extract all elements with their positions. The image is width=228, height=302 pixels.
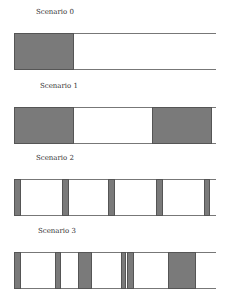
scenario-title: Scenario 3: [12, 227, 102, 235]
occupied-block: [121, 252, 126, 289]
track-bottom-line: [14, 215, 216, 216]
occupied-block: [108, 179, 115, 216]
scenario-panel-2: Scenario 2: [0, 154, 228, 228]
occupied-block: [14, 33, 74, 70]
occupied-block: [127, 252, 134, 289]
track-top-line: [14, 179, 216, 180]
scenario-title: Scenario 1: [14, 82, 104, 90]
scenario-panel-0: Scenario 0: [0, 8, 228, 82]
occupied-block: [62, 179, 69, 216]
occupied-block: [14, 179, 21, 216]
scenario-track: [14, 33, 216, 70]
occupied-block: [168, 252, 196, 289]
occupied-block: [78, 252, 92, 289]
scenario-title: Scenario 0: [10, 8, 100, 16]
scenario-panel-3: Scenario 3: [0, 227, 228, 301]
scenario-panel-1: Scenario 1: [0, 82, 228, 156]
scenario-track: [14, 179, 216, 216]
scenario-track: [14, 252, 216, 289]
occupied-block: [152, 107, 212, 144]
occupied-block: [156, 179, 163, 216]
scenario-track: [14, 107, 216, 144]
scenario-title: Scenario 2: [10, 154, 100, 162]
occupied-block: [14, 252, 21, 289]
occupied-block: [14, 107, 74, 144]
occupied-block: [55, 252, 61, 289]
occupied-block: [204, 179, 210, 216]
